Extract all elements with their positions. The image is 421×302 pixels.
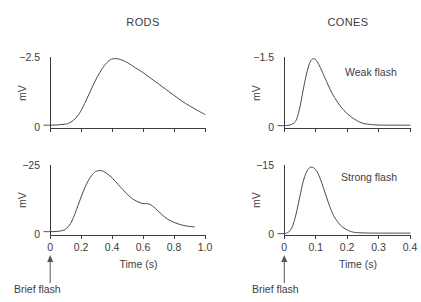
column-title-rods: RODS [83,16,203,28]
brief-flash-arrow-right [281,255,287,283]
axis-rods-weak [50,57,205,128]
y-axis-label: mV [16,85,28,101]
y-axis-label: mV [250,85,262,101]
x-tick-label: 0.2 [74,241,89,253]
x-tick-label: 0 [281,241,287,253]
x-tick-label: 0 [47,241,53,253]
y-tick-label-zero: 0 [268,228,274,240]
x-tick-label: 0.3 [371,241,386,253]
annotation-weak-flash: Weak flash [345,66,397,78]
y-tick-label-zero: 0 [268,121,274,133]
trace-rods-strong [44,171,194,232]
y-tick-label-zero: 0 [34,228,40,240]
x-tick-label: 1.0 [198,241,213,253]
figure-root: RODS CONES Weak flash Strong flash Brief… [0,0,421,302]
y-axis-label: mV [250,192,262,208]
trace-rods-weak [44,59,205,126]
panel-rods-strong: 00.20.40.60.81.0Time (s)−250mV [16,159,212,270]
arrow-head [47,255,53,262]
panel-rods-weak: −2.50mV [16,51,205,133]
brief-flash-label-right: Brief flash [252,283,299,295]
x-axis-label: Time (s) [339,258,377,270]
y-tick-label-zero: 0 [34,121,40,133]
y-tick-label-max: −2.5 [19,51,40,63]
panel-cones-weak: −1.50mV [250,51,410,133]
y-tick-label-max: −25 [22,159,40,171]
x-tick-label: 0.4 [105,241,120,253]
annotation-strong-flash: Strong flash [341,171,397,183]
arrow-head [281,255,287,262]
y-axis-label: mV [16,192,28,208]
brief-flash-label-left: Brief flash [14,283,61,295]
column-title-cones: CONES [288,16,408,28]
x-tick-label: 0.4 [403,241,418,253]
brief-flash-arrow-left [47,255,53,283]
x-tick-label: 0.2 [340,241,355,253]
x-tick-label: 0.1 [308,241,323,253]
x-tick-label: 0.8 [167,241,182,253]
y-tick-label-max: −1.5 [253,51,274,63]
y-tick-label-max: −15 [256,159,274,171]
x-tick-label: 0.6 [136,241,151,253]
x-axis-label: Time (s) [119,258,157,270]
plot-surface: −2.50mV−1.50mV00.20.40.60.81.0Time (s)−2… [0,0,421,302]
